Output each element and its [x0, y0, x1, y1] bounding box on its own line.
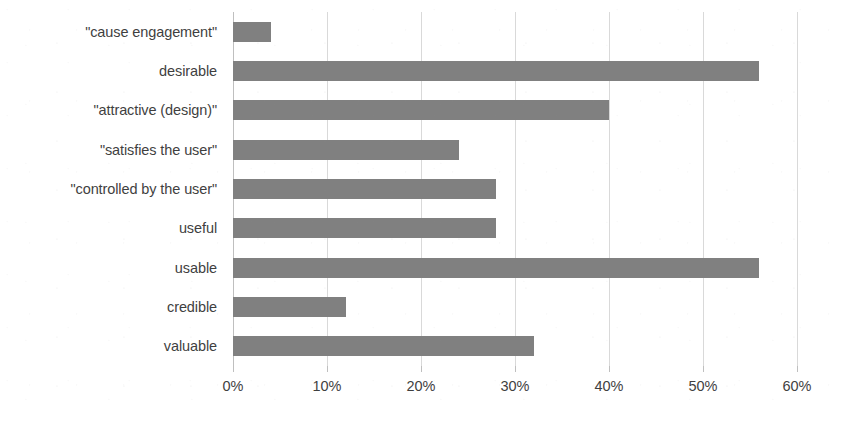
- bar[interactable]: [233, 100, 609, 120]
- axis-tick-label: 30%: [500, 378, 529, 394]
- bar-chart: "cause engagement"desirable"attractive (…: [0, 0, 848, 423]
- category-label: valuable: [0, 327, 225, 366]
- bar[interactable]: [233, 218, 496, 238]
- bar-row: [233, 12, 797, 51]
- category-label: credible: [0, 287, 225, 326]
- bar-row: [233, 287, 797, 326]
- category-label: "controlled by the user": [0, 169, 225, 208]
- axis-tick-label: 0%: [223, 378, 244, 394]
- axis-tick: [797, 366, 798, 372]
- bar-row: [233, 169, 797, 208]
- bar[interactable]: [233, 258, 759, 278]
- axis-tick: [327, 366, 328, 372]
- bar-row: [233, 327, 797, 366]
- bar-row: [233, 209, 797, 248]
- axis-tick: [609, 366, 610, 372]
- bar[interactable]: [233, 61, 759, 81]
- axis-tick-label: 50%: [688, 378, 717, 394]
- bar[interactable]: [233, 140, 459, 160]
- category-label: desirable: [0, 51, 225, 90]
- axis-tick-label: 10%: [312, 378, 341, 394]
- axis-tick: [515, 366, 516, 372]
- plot-area: [233, 12, 797, 366]
- gridline: [797, 12, 798, 366]
- bar[interactable]: [233, 336, 534, 356]
- axis-tick-label: 60%: [782, 378, 811, 394]
- bar[interactable]: [233, 297, 346, 317]
- bar[interactable]: [233, 22, 271, 42]
- value-axis-ticks: [233, 366, 797, 374]
- axis-tick: [421, 366, 422, 372]
- bar-rows: [233, 12, 797, 366]
- bar-row: [233, 248, 797, 287]
- category-label: "attractive (design)": [0, 91, 225, 130]
- axis-tick: [703, 366, 704, 372]
- value-axis-tick-labels: 0%10%20%30%40%50%60%: [233, 378, 797, 402]
- axis-tick-label: 20%: [406, 378, 435, 394]
- bar-row: [233, 130, 797, 169]
- bar-row: [233, 51, 797, 90]
- category-label: "cause engagement": [0, 12, 225, 51]
- category-label: "satisfies the user": [0, 130, 225, 169]
- category-axis-labels: "cause engagement"desirable"attractive (…: [0, 12, 225, 366]
- category-label: useful: [0, 209, 225, 248]
- category-label: usable: [0, 248, 225, 287]
- bar[interactable]: [233, 179, 496, 199]
- axis-tick: [233, 366, 234, 372]
- bar-row: [233, 91, 797, 130]
- axis-tick-label: 40%: [594, 378, 623, 394]
